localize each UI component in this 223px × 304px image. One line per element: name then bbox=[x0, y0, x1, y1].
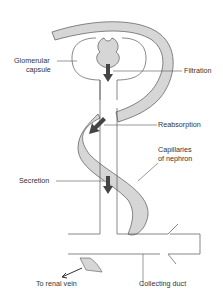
label-to-renal-vein: To renal vein bbox=[36, 280, 77, 288]
glomerulus bbox=[97, 38, 120, 68]
capillary-vessel bbox=[52, 22, 173, 122]
label-capillaries-1: Capillaries bbox=[158, 146, 192, 154]
label-collecting-duct: Collecting duct bbox=[139, 280, 186, 288]
label-secretion: Secretion bbox=[19, 177, 49, 185]
label-glomerular-capsule-2: capsule bbox=[26, 66, 51, 74]
capillaries-leader bbox=[138, 163, 158, 181]
label-reabsorption: Reabsorption bbox=[158, 121, 201, 129]
renal-vein-arrow-icon bbox=[62, 268, 82, 278]
capillary-s-curve bbox=[78, 114, 148, 235]
label-filtration: Filtration bbox=[184, 67, 212, 75]
label-glomerular-capsule-1: Glomerular bbox=[14, 57, 50, 65]
label-capillaries-2: of nephron bbox=[158, 155, 192, 163]
renal-vein bbox=[80, 258, 102, 272]
